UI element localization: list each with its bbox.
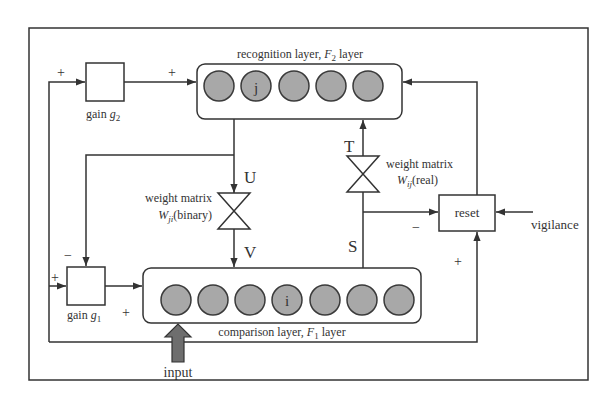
input-arrow-icon bbox=[165, 324, 191, 362]
art-diagram: gain g2 + + recognition layer, F2 layer … bbox=[0, 0, 611, 398]
f1-node bbox=[310, 285, 340, 315]
f1-node bbox=[235, 285, 265, 315]
f2-node bbox=[279, 71, 309, 101]
t-label: T bbox=[344, 137, 355, 156]
weight-binary-line1: weight matrix bbox=[145, 191, 212, 205]
f2-layer-label: recognition layer, F2 layer bbox=[237, 47, 363, 63]
s-label: S bbox=[348, 237, 357, 256]
gain1-top-sign: − bbox=[64, 248, 72, 263]
f1-layer-label: comparison layer, F1 layer bbox=[218, 325, 345, 341]
gain2-label: gain g2 bbox=[86, 107, 120, 123]
gain2-output-sign: + bbox=[168, 65, 176, 80]
weight-binary-line2: Wji(binary) bbox=[158, 208, 212, 224]
weight-matrix-binary-icon bbox=[218, 193, 250, 229]
f2-node bbox=[316, 71, 346, 101]
gain1-label: gain g1 bbox=[67, 308, 101, 324]
weight-matrix-real-icon bbox=[347, 156, 379, 192]
f1-node bbox=[384, 285, 414, 315]
weight-real-line2: Wij(real) bbox=[397, 173, 438, 189]
gain1-box bbox=[67, 267, 105, 305]
f1-node bbox=[198, 285, 228, 315]
v-label: V bbox=[244, 243, 257, 262]
f2-node-j-label: j bbox=[253, 80, 258, 96]
reset-label: reset bbox=[455, 205, 480, 220]
gain2-box bbox=[86, 63, 124, 101]
vigilance-label: vigilance bbox=[531, 217, 579, 232]
gain1-left-sign: + bbox=[51, 270, 59, 285]
f2-node bbox=[204, 71, 234, 101]
f1-node bbox=[347, 285, 377, 315]
reset-plus-sign: + bbox=[454, 254, 462, 269]
gain1-output-sign: + bbox=[122, 305, 130, 320]
input-label: input bbox=[164, 365, 193, 380]
reset-minus-sign: − bbox=[412, 220, 420, 235]
gain2-input-sign: + bbox=[57, 65, 65, 80]
weight-real-line1: weight matrix bbox=[386, 157, 453, 171]
f1-node-i-label: i bbox=[285, 293, 289, 309]
f2-node bbox=[353, 71, 383, 101]
f1-node bbox=[161, 285, 191, 315]
u-label: U bbox=[244, 168, 256, 187]
